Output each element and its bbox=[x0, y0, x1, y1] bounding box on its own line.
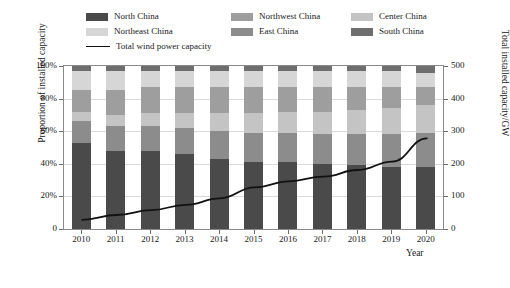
y-axis-tick-mark-right bbox=[444, 229, 448, 230]
legend-item-center-china[interactable]: Center China bbox=[351, 12, 427, 21]
x-axis-tick-mark bbox=[288, 230, 289, 234]
legend-color-swatch bbox=[86, 13, 108, 21]
y-axis-label-right: Total installed capacity/GW bbox=[500, 0, 510, 173]
legend-item-northeast-china[interactable]: Northeast China bbox=[86, 27, 173, 36]
x-axis-tick-mark bbox=[81, 230, 82, 234]
y-axis-tick-label-right: 400 bbox=[451, 93, 491, 103]
y-axis-tick-label-right: 100 bbox=[451, 190, 491, 200]
x-axis-tick-mark bbox=[391, 230, 392, 234]
legend-item-south-china[interactable]: South China bbox=[351, 27, 424, 36]
legend-item-label: Center China bbox=[379, 12, 427, 21]
legend-item-label: South China bbox=[379, 27, 424, 36]
y-axis-tick-mark-right bbox=[444, 99, 448, 100]
legend-item-total-wind-power-capacity[interactable]: Total wind power capacity bbox=[86, 42, 212, 51]
chart-legend: North ChinaNortheast ChinaNorthwest Chin… bbox=[86, 12, 486, 56]
y-axis-tick-mark-right bbox=[444, 66, 448, 67]
legend-color-swatch bbox=[351, 28, 373, 36]
legend-line-swatch bbox=[86, 46, 110, 47]
legend-item-north-china[interactable]: North China bbox=[86, 12, 159, 21]
y-axis-tick-mark-right bbox=[444, 164, 448, 165]
legend-item-northwest-china[interactable]: Northwest China bbox=[231, 12, 320, 21]
y-axis-tick-label-left: 0 bbox=[17, 223, 57, 233]
y-axis-tick-label-left: 20% bbox=[17, 190, 57, 200]
y-axis-tick-label-right: 500 bbox=[451, 60, 491, 70]
legend-item-label: Northeast China bbox=[114, 27, 173, 36]
legend-item-label: East China bbox=[259, 27, 298, 36]
x-axis-tick-mark bbox=[150, 230, 151, 234]
y-axis-tick-label-left: 80% bbox=[17, 93, 57, 103]
y-axis-tick-label-right: 300 bbox=[451, 125, 491, 135]
legend-color-swatch bbox=[231, 13, 253, 21]
x-axis-tick-mark bbox=[185, 230, 186, 234]
y-axis-tick-label-right: 200 bbox=[451, 158, 491, 168]
y-axis-tick-mark-right bbox=[444, 131, 448, 132]
x-axis-tick-mark bbox=[426, 230, 427, 234]
legend-color-swatch bbox=[351, 13, 373, 21]
x-axis-tick-mark bbox=[116, 230, 117, 234]
y-axis-tick-mark-right bbox=[444, 196, 448, 197]
y-axis-tick-label-right: 0 bbox=[451, 223, 491, 233]
x-axis-tick-label: 2020 bbox=[402, 234, 450, 244]
x-axis-tick-mark bbox=[322, 230, 323, 234]
y-axis-label-left: Proportion of installed capacity bbox=[37, 0, 47, 173]
plot-area bbox=[63, 65, 444, 230]
x-axis-label: Year bbox=[406, 248, 424, 258]
legend-item-label: Northwest China bbox=[259, 12, 320, 21]
legend-item-label: Total wind power capacity bbox=[116, 42, 212, 51]
y-axis-tick-label-left: 40% bbox=[17, 158, 57, 168]
legend-color-swatch bbox=[86, 28, 108, 36]
legend-item-east-china[interactable]: East China bbox=[231, 27, 298, 36]
x-axis-tick-mark bbox=[357, 230, 358, 234]
x-axis-tick-mark bbox=[254, 230, 255, 234]
y-axis-tick-label-left: 100% bbox=[17, 60, 57, 70]
total-capacity-line bbox=[82, 138, 427, 220]
line-series-total-wind-power-capacity bbox=[64, 66, 443, 229]
x-axis-tick-mark bbox=[219, 230, 220, 234]
legend-item-label: North China bbox=[114, 12, 159, 21]
legend-color-swatch bbox=[231, 28, 253, 36]
y-axis-tick-label-left: 60% bbox=[17, 125, 57, 135]
